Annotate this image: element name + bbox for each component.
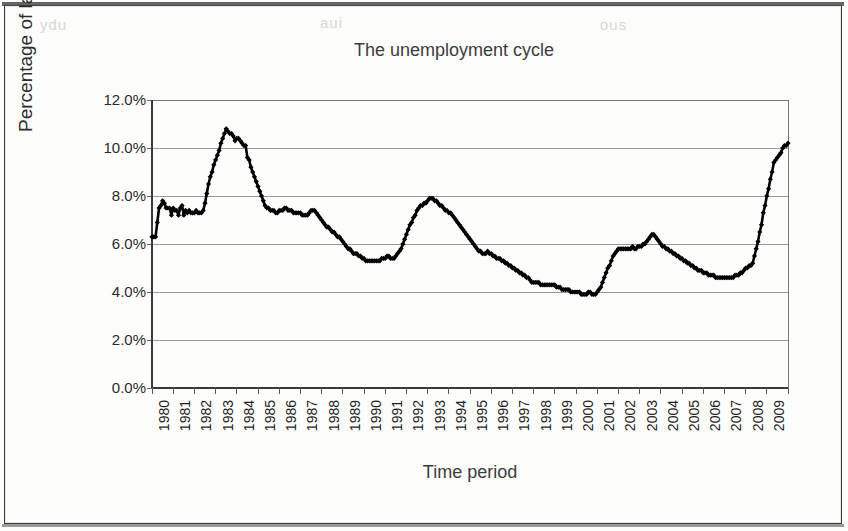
x-tick-label: 1988 xyxy=(326,400,342,431)
x-tick-label: 1982 xyxy=(198,400,214,431)
x-tick-label: 2003 xyxy=(644,400,660,431)
x-tick-label: 1994 xyxy=(453,400,469,431)
x-tick-label: 1998 xyxy=(538,400,554,431)
x-axis-title: Time period xyxy=(152,462,788,483)
x-tick-label: 1996 xyxy=(495,400,511,431)
x-tick-label: 2005 xyxy=(686,400,702,431)
x-tick-label: 1986 xyxy=(283,400,299,431)
x-tick-label: 2001 xyxy=(601,400,617,431)
x-tick-label: 1991 xyxy=(389,400,405,431)
x-axis-tick-labels: 1980198119821983198419851986198719881989… xyxy=(0,392,848,454)
x-tick-label: 1999 xyxy=(559,400,575,431)
x-tick-label: 2006 xyxy=(707,400,723,431)
x-tick-label: 2004 xyxy=(665,400,681,431)
x-tick-label: 1984 xyxy=(241,400,257,431)
x-tick-label: 1997 xyxy=(516,400,532,431)
scanned-page: ydu aui ous The unemployment cycle Perce… xyxy=(0,0,848,531)
x-tick-label: 1990 xyxy=(368,400,384,431)
x-tick-label: 2000 xyxy=(580,400,596,431)
x-tick-label: 1983 xyxy=(220,400,236,431)
x-tick-label: 1987 xyxy=(304,400,320,431)
x-tick-label: 2008 xyxy=(750,400,766,431)
x-tick-label: 2002 xyxy=(622,400,638,431)
data-series-unemployment-rate xyxy=(149,126,790,297)
x-tick-label: 1981 xyxy=(177,400,193,431)
x-tick-label: 2009 xyxy=(771,400,787,431)
x-tick-label: 1992 xyxy=(410,400,426,431)
x-tick-label: 2007 xyxy=(728,400,744,431)
x-tick-label: 1980 xyxy=(156,400,172,431)
x-tick-label: 1989 xyxy=(347,400,363,431)
x-tick-label: 1995 xyxy=(474,400,490,431)
x-tick-label: 1993 xyxy=(432,400,448,431)
x-tick-label: 1985 xyxy=(262,400,278,431)
